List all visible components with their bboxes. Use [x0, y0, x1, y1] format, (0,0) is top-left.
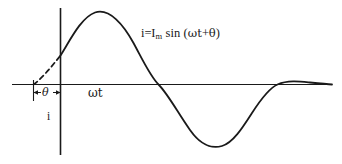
sine-curve-dashed-segment	[34, 56, 61, 85]
theta-arrow-right	[53, 90, 61, 95]
equation-label: i=Im sin (ωt+θ)	[141, 27, 220, 40]
equation-plus: +	[202, 26, 209, 40]
theta-arrow-left	[34, 90, 42, 95]
waveform-svg	[0, 0, 342, 164]
equation-theta: θ	[209, 26, 216, 40]
x-axis-label: ωt	[88, 87, 103, 99]
equation-function: sin	[165, 26, 180, 40]
equation-omega-t: ωt	[188, 26, 202, 40]
equation-amplitude-subscript: m	[156, 31, 163, 41]
y-axis-label: i	[47, 111, 50, 123]
waveform-figure: i=Im sin (ωt+θ) ωt i θ	[0, 0, 342, 164]
equation-close-paren: )	[216, 26, 220, 40]
phase-angle-label: θ	[42, 87, 49, 98]
